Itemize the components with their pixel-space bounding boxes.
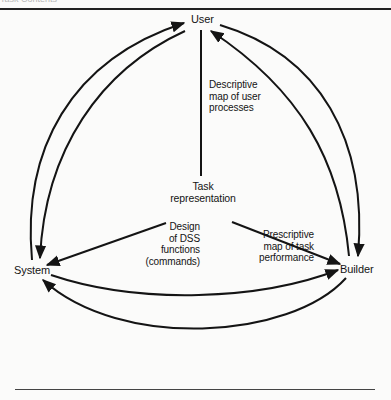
edge-system-builder-inner [51, 270, 338, 295]
bottom-rule [15, 389, 375, 390]
task-line1: Task [163, 180, 243, 192]
label-descriptive-map: Descriptive map of user processes [209, 79, 261, 114]
node-builder: Builder [340, 263, 374, 275]
label-prescriptive-map: Prescriptive map of task performance [238, 229, 314, 264]
label-design-dss-functions: Design of DSS functions (commands) [128, 221, 200, 267]
node-task-representation: Task representation [163, 180, 243, 204]
edge-user-builder-outer [220, 25, 359, 256]
node-system: System [14, 264, 50, 276]
edge-builder-user-inner [211, 31, 349, 256]
node-user: User [191, 13, 214, 25]
task-line2: representation [163, 192, 243, 204]
